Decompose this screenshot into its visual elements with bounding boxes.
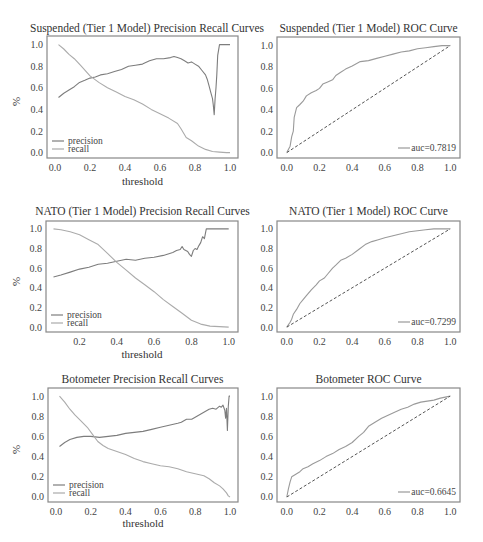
precision-line	[59, 45, 231, 115]
auc-legend-label: auc=0.7819	[411, 143, 456, 153]
y-tick-label: 0.0	[261, 491, 274, 502]
x-tick-label: 0.0	[281, 506, 294, 517]
x-tick-label: 0.4	[119, 162, 132, 173]
x-tick-label: 1.0	[444, 506, 457, 517]
x-tick-label: 1.0	[222, 336, 235, 347]
y-tick-label: 1.0	[30, 223, 43, 234]
y-tick-label: 0.2	[32, 471, 45, 482]
x-tick-label: 0.6	[379, 336, 392, 347]
x-tick-label: 0.8	[411, 162, 424, 173]
x-tick-label: 0.8	[411, 506, 424, 517]
y-tick-label: 0.6	[261, 83, 274, 94]
y-tick-label: 0.0	[261, 322, 274, 333]
auc-legend-label: auc=0.6645	[411, 487, 456, 497]
x-tick-label: 0.0	[281, 162, 294, 173]
recall-legend-label: recall	[69, 488, 90, 498]
y-tick-label: 1.0	[32, 391, 45, 402]
x-tick-label: 0.4	[346, 336, 359, 347]
y-tick-label: 0.4	[31, 104, 44, 115]
roc-nato-plot: 0.00.20.40.60.81.00.00.20.40.60.81.0auc=…	[245, 185, 483, 355]
precision-line	[54, 229, 229, 277]
x-tick-label: 0.2	[73, 336, 86, 347]
x-tick-label: 0.2	[313, 336, 326, 347]
y-tick-label: 0.6	[30, 263, 43, 274]
x-tick-label: 0.6	[154, 506, 167, 517]
pr-botometer-plot: 0.00.20.40.60.81.00.00.20.40.60.81.0prec…	[0, 355, 245, 542]
x-tick-label: 1.0	[224, 162, 237, 173]
x-tick-label: 0.6	[379, 162, 392, 173]
auc-legend-label: auc=0.7299	[411, 317, 456, 327]
precision-line	[60, 396, 231, 446]
recall-legend-label: recall	[68, 144, 89, 154]
x-tick-label: 0.8	[189, 506, 202, 517]
x-tick-label: 0.6	[148, 336, 161, 347]
x-tick-label: 0.2	[313, 162, 326, 173]
x-tick-label: 1.0	[444, 336, 457, 347]
diagonal-line	[287, 396, 450, 497]
y-axis-label: %	[10, 266, 22, 286]
roc-botometer-plot: 0.00.20.40.60.81.00.00.20.40.60.81.0auc=…	[245, 355, 483, 542]
y-tick-label: 0.6	[261, 431, 274, 442]
y-tick-label: 0.4	[32, 451, 45, 462]
plot-frame	[277, 388, 460, 502]
y-tick-label: 1.0	[261, 223, 274, 234]
y-tick-label: 0.4	[261, 282, 274, 293]
x-tick-label: 0.2	[84, 162, 97, 173]
y-tick-label: 0.4	[30, 282, 43, 293]
x-tick-label: 0.6	[154, 162, 167, 173]
plot-frame	[277, 37, 460, 158]
x-tick-label: 0.0	[281, 336, 294, 347]
x-tick-label: 0.8	[185, 336, 198, 347]
x-tick-label: 0.2	[313, 506, 326, 517]
x-tick-label: 0.4	[346, 506, 359, 517]
pr-nato-plot: 0.20.40.60.81.00.00.20.40.60.81.0precisi…	[0, 185, 245, 355]
plot-frame	[277, 221, 460, 332]
pr-botometer-panel: Botometer Precision Recall Curves 0.00.2…	[0, 355, 245, 542]
pr-suspended-panel: Suspended (Tier 1 Model) Precision Recal…	[0, 0, 245, 180]
y-tick-label: 0.0	[32, 491, 45, 502]
x-tick-label: 1.0	[224, 506, 237, 517]
y-tick-label: 0.6	[31, 82, 44, 93]
roc-suspended-plot: 0.00.20.40.60.81.00.00.20.40.60.81.0auc=…	[245, 0, 483, 180]
y-tick-label: 0.8	[261, 61, 274, 72]
y-tick-label: 0.2	[30, 302, 43, 313]
y-tick-label: 0.0	[261, 147, 274, 158]
y-tick-label: 0.8	[30, 243, 43, 254]
y-tick-label: 0.4	[261, 104, 274, 115]
x-tick-label: 0.8	[411, 336, 424, 347]
roc-suspended-panel: Suspended (Tier 1 Model) ROC Curve 0.00.…	[245, 0, 483, 180]
roc-botometer-panel: Botometer ROC Curve 0.00.20.40.60.81.00.…	[245, 355, 483, 542]
x-tick-label: 1.0	[444, 162, 457, 173]
x-axis-label: threshold	[48, 517, 238, 529]
y-tick-label: 1.0	[31, 39, 44, 50]
y-tick-label: 0.6	[32, 431, 45, 442]
x-tick-label: 0.6	[379, 506, 392, 517]
x-tick-label: 0.0	[50, 506, 63, 517]
x-tick-label: 0.4	[119, 506, 132, 517]
y-tick-label: 0.2	[261, 302, 274, 313]
y-tick-label: 0.8	[261, 243, 274, 254]
y-tick-label: 0.8	[31, 61, 44, 72]
x-tick-label: 0.4	[346, 162, 359, 173]
roc-nato-panel: NATO (Tier 1 Model) ROC Curve 0.00.20.40…	[245, 185, 483, 355]
x-tick-label: 0.2	[85, 506, 98, 517]
pr-suspended-plot: 0.00.20.40.60.81.00.00.20.40.60.81.0prec…	[0, 0, 245, 180]
y-axis-label: %	[10, 434, 22, 454]
recall-legend-label: recall	[67, 318, 88, 328]
y-tick-label: 0.2	[261, 126, 274, 137]
y-tick-label: 0.8	[32, 411, 45, 422]
y-tick-label: 1.0	[261, 391, 274, 402]
diagonal-line	[287, 46, 450, 153]
y-tick-label: 0.0	[31, 147, 44, 158]
y-tick-label: 0.2	[31, 126, 44, 137]
x-tick-label: 0.4	[111, 336, 124, 347]
y-tick-label: 1.0	[261, 40, 274, 51]
y-tick-label: 0.0	[30, 322, 43, 333]
y-tick-label: 0.4	[261, 451, 274, 462]
y-tick-label: 0.2	[261, 471, 274, 482]
pr-nato-panel: NATO (Tier 1 Model) Precision Recall Cur…	[0, 185, 245, 355]
x-tick-label: 0.0	[49, 162, 62, 173]
y-tick-label: 0.6	[261, 263, 274, 274]
y-axis-label: %	[10, 86, 22, 106]
x-tick-label: 0.8	[189, 162, 202, 173]
